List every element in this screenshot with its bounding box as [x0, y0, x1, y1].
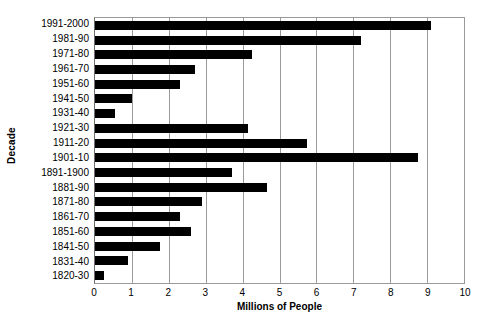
- x-axis-tick-label: 7: [351, 286, 357, 300]
- y-axis-tick-label: 1851-60: [20, 225, 92, 240]
- bar-row: [95, 47, 464, 62]
- y-axis-tick-label: 1921-30: [20, 121, 92, 136]
- bar: [95, 94, 132, 103]
- bar: [95, 50, 252, 59]
- y-axis-tick-label: 1931-40: [20, 106, 92, 121]
- bar-row: [95, 62, 464, 77]
- bar-row: [95, 224, 464, 239]
- bar-row: [95, 136, 464, 151]
- y-axis-title: Decade: [2, 0, 20, 290]
- bar: [95, 139, 307, 148]
- bar-row: [95, 254, 464, 269]
- bar-row: [95, 165, 464, 180]
- bar: [95, 153, 418, 162]
- bar: [95, 227, 191, 236]
- x-axis-tick-label: 1: [128, 286, 134, 300]
- y-axis-tick-label: 1941-50: [20, 91, 92, 106]
- y-axis-tick-label: 1820-30: [20, 269, 92, 284]
- bar-chart: Decade 1991-20001981-901971-801961-70195…: [0, 0, 486, 323]
- x-axis-tick-label: 10: [459, 286, 470, 300]
- plot-area: [94, 17, 465, 284]
- x-axis-tick-label: 0: [91, 286, 97, 300]
- bar-row: [95, 239, 464, 254]
- bar-row: [95, 121, 464, 136]
- bar: [95, 36, 361, 45]
- y-axis-tick-label: 1971-80: [20, 47, 92, 62]
- x-axis-tick-label: 8: [388, 286, 394, 300]
- bar-row: [95, 77, 464, 92]
- x-axis-tick-label: 4: [240, 286, 246, 300]
- bar-row: [95, 268, 464, 283]
- bar: [95, 109, 115, 118]
- bar: [95, 256, 128, 265]
- y-axis-tick-label: 1981-90: [20, 32, 92, 47]
- bar-row: [95, 92, 464, 107]
- x-axis-tick-label: 9: [425, 286, 431, 300]
- x-axis-tick-labels: 012345678910: [94, 286, 465, 300]
- bar: [95, 168, 232, 177]
- y-axis-tick-label: 1991-2000: [20, 17, 92, 32]
- y-axis-tick-label: 1951-60: [20, 76, 92, 91]
- bar: [95, 183, 267, 192]
- bar: [95, 271, 104, 280]
- y-axis-tick-label: 1901-10: [20, 150, 92, 165]
- bar: [95, 65, 195, 74]
- bar: [95, 242, 160, 251]
- bar-series: [95, 18, 464, 283]
- bar-row: [95, 33, 464, 48]
- y-axis-tick-label: 1881-90: [20, 180, 92, 195]
- y-axis-tick-label: 1911-20: [20, 136, 92, 151]
- bar: [95, 21, 431, 30]
- x-axis-tick-label: 3: [203, 286, 209, 300]
- y-axis-tick-label: 1961-70: [20, 61, 92, 76]
- bar-row: [95, 209, 464, 224]
- bar: [95, 212, 180, 221]
- bar-row: [95, 18, 464, 33]
- y-axis-tick-label: 1831-40: [20, 254, 92, 269]
- x-axis-tick-label: 5: [277, 286, 283, 300]
- y-axis-tick-label: 1841-50: [20, 239, 92, 254]
- bar-row: [95, 195, 464, 210]
- y-axis-tick-label: 1861-70: [20, 210, 92, 225]
- x-axis-tick-label: 6: [314, 286, 320, 300]
- x-axis-title: Millions of People: [94, 301, 465, 312]
- y-axis-tick-labels: 1991-20001981-901971-801961-701951-60194…: [20, 17, 92, 284]
- bar: [95, 124, 248, 133]
- bar-row: [95, 180, 464, 195]
- y-axis-title-text: Decade: [6, 127, 17, 164]
- x-axis-tick-label: 2: [165, 286, 171, 300]
- y-axis-tick-label: 1871-80: [20, 195, 92, 210]
- bar-row: [95, 106, 464, 121]
- bar: [95, 197, 202, 206]
- y-axis-tick-label: 1891-1900: [20, 165, 92, 180]
- bar-row: [95, 150, 464, 165]
- bar: [95, 80, 180, 89]
